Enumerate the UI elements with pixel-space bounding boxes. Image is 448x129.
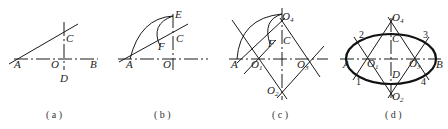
label-b-A: A: [125, 58, 133, 70]
label-b-O: O: [163, 58, 171, 70]
figure-a: A O B C D ( a ): [9, 22, 98, 121]
label-d-point-3: 3: [423, 29, 428, 40]
label-d-D: D: [391, 68, 400, 80]
label-d-B: B: [436, 58, 443, 70]
label-a-C: C: [66, 32, 74, 44]
label-d-O2: O2: [392, 90, 404, 104]
label-d-C: C: [392, 32, 400, 44]
label-c-C: C: [283, 34, 291, 46]
line-1-o4-d: [353, 17, 394, 80]
label-d-A: A: [342, 58, 350, 70]
label-c-A: A: [230, 58, 238, 70]
label-b-E: E: [174, 8, 182, 20]
caption-a: ( a ): [46, 109, 62, 121]
caption-c: ( c ): [272, 109, 288, 121]
label-a-O: O: [51, 58, 59, 70]
figure-c: A O1 O3 O4 O2 C F ( c ): [229, 8, 328, 121]
caption-b: ( b ): [154, 109, 171, 121]
figure-b: A O C E F ( b ): [118, 8, 208, 121]
label-c-O3: O3: [297, 58, 309, 72]
label-c-O2: O2: [267, 84, 279, 98]
label-d-O4: O4: [392, 11, 404, 25]
label-b-C: C: [176, 32, 184, 44]
label-a-B: B: [90, 58, 97, 70]
label-c-O4: O4: [282, 10, 294, 24]
figure-d: A B C D O1 O3 O4 O2 2 3 1 4 ( d ): [340, 11, 443, 121]
label-d-point-2: 2: [359, 29, 364, 40]
ellipse-construction-diagram: A O B C D ( a ) A O C E F ( b ) A O1 O3 …: [0, 0, 448, 129]
label-d-point-1: 1: [356, 76, 361, 87]
label-c-O1: O1: [251, 58, 262, 72]
label-b-F: F: [157, 40, 165, 52]
label-c-F: F: [267, 37, 275, 49]
label-d-O1: O1: [367, 57, 378, 71]
label-a-D: D: [59, 72, 68, 84]
label-d-point-4: 4: [421, 76, 426, 87]
caption-d: ( d ): [385, 109, 402, 121]
label-a-A: A: [13, 58, 21, 70]
